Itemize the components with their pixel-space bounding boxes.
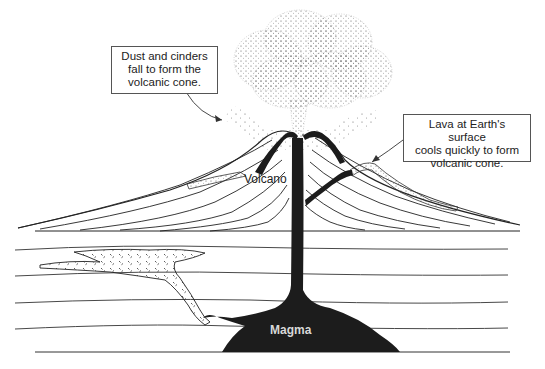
- sill-intrusion: [40, 249, 210, 325]
- callout-lava-surface: Lava at Earth's surface cools quickly to…: [403, 114, 531, 162]
- callout-line: volcanic cone.: [410, 157, 524, 170]
- lava-flow-right: [350, 163, 458, 211]
- callout-line: fall to form the: [118, 63, 211, 76]
- label-volcano: Volcano: [244, 172, 287, 186]
- callout-line: volcanic cone.: [118, 76, 211, 89]
- callout-line: Lava at Earth's surface: [410, 118, 524, 144]
- callout-line: Dust and cinders: [118, 50, 211, 63]
- arrow-dust: [186, 92, 222, 120]
- lava-dike: [305, 170, 353, 206]
- arrow-lava-head: [372, 155, 380, 162]
- arrow-dust-head: [215, 115, 222, 122]
- label-magma: Magma: [270, 323, 311, 337]
- callout-line: cools quickly to form: [410, 144, 524, 157]
- ash-cloud: [225, 10, 392, 150]
- callout-dust-cinders: Dust and cinders fall to form the volcan…: [111, 46, 218, 94]
